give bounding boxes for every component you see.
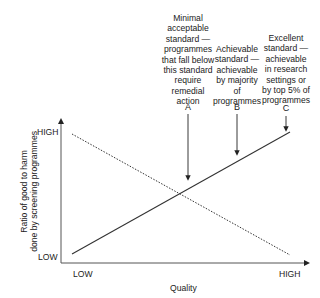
annotation-line: in research: [254, 64, 318, 74]
y-axis-low-label: LOW: [38, 252, 58, 262]
annotation-line: acceptable: [148, 23, 228, 33]
marker-b-letter: B: [231, 102, 243, 112]
x-axis-high-label: HIGH: [279, 269, 300, 279]
annotation-line: Minimal: [148, 13, 228, 23]
annotation-line: achievable: [254, 54, 318, 64]
marker-c-annotation: Excellent standard — achievable in resea…: [254, 33, 318, 106]
marker-c-letter: C: [280, 103, 292, 113]
annotation-line: settings or: [254, 75, 318, 85]
y-axis-title-line: Ratio of good to harm: [19, 121, 29, 261]
annotation-line: standard —: [148, 34, 228, 44]
harm-line: [72, 134, 290, 255]
annotation-line: by top 5% of: [254, 85, 318, 95]
annotation-line: Excellent: [254, 33, 318, 43]
x-axis-low-label: LOW: [73, 269, 93, 279]
y-axis-title: Ratio of good to harm done by screening …: [19, 121, 40, 261]
benefit-line: [72, 132, 290, 254]
annotation-line: standard —: [254, 43, 318, 53]
y-axis-high-label: HIGH: [37, 127, 58, 137]
x-axis-title: Quality: [170, 283, 197, 293]
marker-a-letter: A: [182, 102, 194, 112]
y-axis-title-line: done by screening programmes: [29, 121, 39, 261]
